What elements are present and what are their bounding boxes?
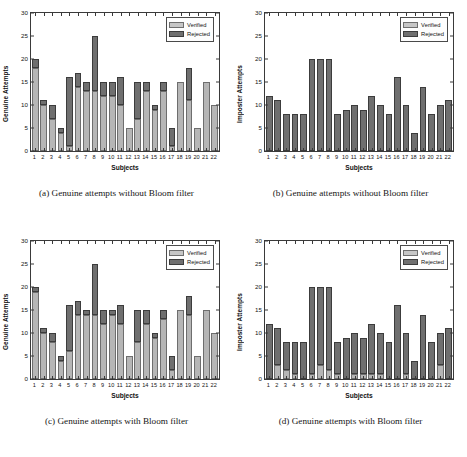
x-tick-mark: [397, 148, 398, 151]
y-tick-label: 5: [259, 353, 262, 359]
x-tick-label: 21: [436, 154, 442, 160]
y-tick-mark: [265, 151, 268, 152]
x-tick-mark-top: [95, 241, 96, 244]
x-tick-label: 10: [342, 154, 348, 160]
chart-panel-b: Imposter Attempts Verified Rejected 0510…: [234, 0, 467, 228]
x-tick-mark-top: [346, 241, 347, 244]
x-tick-label: 8: [327, 382, 330, 388]
legend-entry-verified: Verified: [169, 249, 210, 257]
bar-segment-rejected: [152, 333, 159, 338]
x-tick-label: 7: [318, 154, 321, 160]
y-tick-label: 0: [25, 376, 28, 382]
bar-segment-verified: [152, 110, 159, 151]
bar-segment-verified: [83, 91, 90, 151]
x-tick-mark-top: [172, 241, 173, 244]
x-tick-mark: [44, 148, 45, 151]
y-tick-label: 20: [255, 284, 262, 290]
x-tick-mark-top: [52, 241, 53, 244]
x-tick-label: 7: [84, 382, 87, 388]
x-tick-mark-top: [189, 241, 190, 244]
x-tick-mark-top: [286, 241, 287, 244]
x-tick-mark-top: [389, 13, 390, 16]
x-tick-mark: [104, 376, 105, 379]
x-tick-mark-top: [61, 13, 62, 16]
bar-stack: [334, 342, 341, 379]
y-tick-mark-right: [450, 82, 453, 83]
x-tick-mark: [372, 376, 373, 379]
y-tick-mark: [31, 379, 34, 380]
bar-segment-rejected: [274, 328, 281, 365]
y-tick-mark: [265, 82, 268, 83]
x-tick-label: 15: [151, 382, 157, 388]
axes-d: Verified Rejected 051015202530: [264, 240, 454, 380]
bar-segment-verified: [100, 324, 107, 379]
x-tick-label: 21: [202, 382, 208, 388]
y-tick-mark-right: [450, 310, 453, 311]
x-tick-mark: [295, 148, 296, 151]
y-tick-label: 5: [25, 353, 28, 359]
x-tick-mark-top: [87, 13, 88, 16]
y-tick-mark: [31, 287, 34, 288]
bar-segment-rejected: [75, 301, 82, 315]
x-tick-mark-top: [303, 241, 304, 244]
bar-segment-rejected: [368, 324, 375, 375]
bar-segment-rejected: [40, 328, 47, 333]
bar-stack: [75, 73, 82, 151]
x-tick-mark-top: [397, 13, 398, 16]
x-tick-mark: [312, 376, 313, 379]
x-tick-mark: [146, 148, 147, 151]
x-tick-label: 3: [50, 382, 53, 388]
bar-segment-rejected: [326, 287, 333, 370]
bar-stack: [394, 77, 401, 151]
y-tick-mark: [265, 310, 268, 311]
bar-stack: [351, 333, 358, 379]
x-tick-label: 12: [125, 154, 131, 160]
x-tick-mark: [206, 376, 207, 379]
x-tick-mark-top: [69, 241, 70, 244]
x-tick-label: 12: [125, 382, 131, 388]
legend-swatch-verified-icon: [403, 250, 418, 256]
bar-stack: [92, 36, 99, 151]
x-tick-label: 9: [101, 154, 104, 160]
x-tick-mark-top: [129, 241, 130, 244]
x-tick-mark-top: [355, 241, 356, 244]
legend-entry-verified: Verified: [403, 249, 444, 257]
x-tick-mark-top: [423, 13, 424, 16]
y-tick-mark-right: [450, 128, 453, 129]
y-tick-mark-right: [216, 13, 219, 14]
x-tick-mark: [95, 148, 96, 151]
x-tick-mark: [95, 376, 96, 379]
x-tick-label: 8: [327, 154, 330, 160]
x-tick-mark: [363, 148, 364, 151]
x-tick-mark: [198, 148, 199, 151]
x-tick-mark: [138, 148, 139, 151]
x-tick-mark-top: [312, 241, 313, 244]
bar-segment-rejected: [437, 105, 444, 151]
x-tick-label: 13: [134, 382, 140, 388]
x-tick-mark-top: [321, 241, 322, 244]
x-tick-mark: [129, 376, 130, 379]
x-tick-mark-top: [286, 13, 287, 16]
x-tick-label: 6: [75, 382, 78, 388]
bar-stack: [109, 310, 116, 379]
y-tick-mark-right: [216, 151, 219, 152]
y-tick-mark: [265, 379, 268, 380]
x-tick-label: 3: [284, 382, 287, 388]
y-tick-mark-right: [450, 59, 453, 60]
y-axis-label-b: Imposter Attempts: [236, 34, 248, 154]
x-tick-mark: [380, 148, 381, 151]
bar-segment-rejected: [160, 310, 167, 319]
bar-stack: [152, 333, 159, 379]
x-tick-mark: [423, 148, 424, 151]
x-tick-mark-top: [406, 241, 407, 244]
x-tick-label: 11: [117, 382, 123, 388]
x-tick-mark-top: [423, 241, 424, 244]
x-tick-label: 2: [41, 154, 44, 160]
y-tick-mark-right: [216, 310, 219, 311]
bar-segment-verified: [160, 319, 167, 379]
bar-stack: [420, 87, 427, 151]
x-tick-mark: [329, 148, 330, 151]
x-tick-mark-top: [181, 13, 182, 16]
bar-stack: [368, 96, 375, 151]
bar-segment-rejected: [83, 310, 90, 315]
